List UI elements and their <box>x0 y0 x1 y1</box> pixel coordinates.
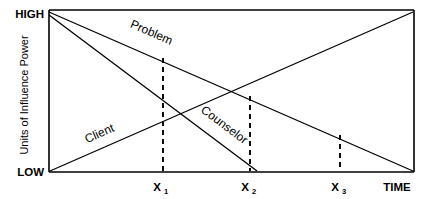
x-tick-3-subscript: 3 <box>342 187 346 196</box>
series-label-client: Client <box>83 121 117 146</box>
x-tick-label-3: X 3 <box>331 181 346 196</box>
x-axis-title: TIME <box>383 181 411 193</box>
y-axis-low-label: LOW <box>17 166 44 178</box>
y-axis-title: Units of Influence Power <box>18 35 30 155</box>
influence-power-chart: HIGH LOW Units of Influence Power X 1 X … <box>0 0 434 199</box>
y-axis-high-label: HIGH <box>15 8 44 20</box>
x-tick-2-subscript: 2 <box>252 187 256 196</box>
series-label-counselor: Counselor <box>198 103 250 147</box>
x-tick-label-1: X 1 <box>153 181 168 196</box>
x-tick-2-text: X <box>241 181 249 193</box>
x-tick-3-text: X <box>331 181 339 193</box>
x-tick-1-text: X <box>153 181 161 193</box>
x-tick-1-subscript: 1 <box>164 187 168 196</box>
series-label-problem: Problem <box>128 17 175 48</box>
chart-page: HIGH LOW Units of Influence Power X 1 X … <box>0 0 434 199</box>
x-tick-label-2: X 2 <box>241 181 256 196</box>
